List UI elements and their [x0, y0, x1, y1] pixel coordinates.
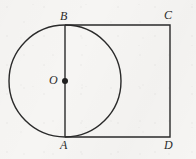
geometry-figure: B C A D O [0, 0, 196, 159]
point-label-c: C [164, 9, 172, 21]
geometry-canvas [0, 0, 196, 159]
square-shape [65, 25, 170, 137]
center-point-dot [62, 78, 68, 84]
point-label-a: A [60, 139, 67, 151]
point-label-b: B [60, 10, 67, 22]
point-label-d: D [164, 139, 173, 151]
point-label-o: O [49, 74, 58, 86]
